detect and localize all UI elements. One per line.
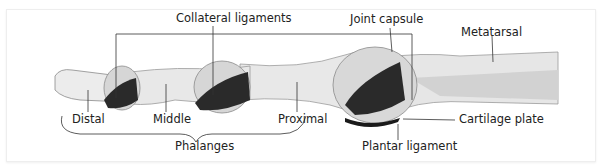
label-proximal: Proximal	[278, 114, 327, 126]
label-metatarsal: Metatarsal	[461, 27, 522, 39]
label-distal: Distal	[72, 114, 105, 126]
label-collateral-ligaments: Collateral ligaments	[176, 13, 292, 25]
label-joint-capsule: Joint capsule	[350, 14, 423, 26]
label-plantar-ligament: Plantar ligament	[362, 141, 457, 153]
label-phalanges: Phalanges	[175, 141, 234, 153]
label-middle: Middle	[153, 114, 191, 126]
label-cartilage-plate: Cartilage plate	[459, 114, 544, 126]
